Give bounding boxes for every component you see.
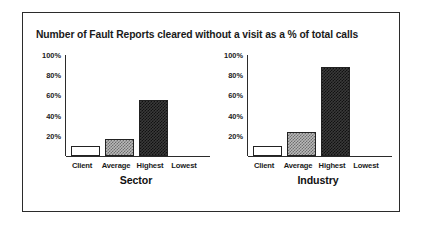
bar-group-industry	[250, 55, 387, 156]
category-label-average: Average	[281, 161, 315, 170]
panel-label-industry: Industry	[247, 174, 389, 186]
plot-area-sector	[65, 55, 205, 156]
chart-title: Number of Fault Reports cleared without …	[36, 29, 388, 40]
y-axis-sector: 100% 80% 60% 40% 20%	[31, 55, 63, 156]
category-label-client: Client	[247, 161, 281, 170]
y-tick-20: 20%	[228, 132, 243, 139]
y-tick-20: 20%	[46, 132, 61, 139]
bar-slot-highest	[318, 55, 352, 156]
category-label-lowest: Lowest	[349, 161, 383, 170]
bar-slot-highest	[136, 55, 170, 156]
category-label-average: Average	[99, 161, 133, 170]
figure-frame: Number of Fault Reports cleared without …	[22, 12, 400, 212]
category-labels-industry: Client Average Highest Lowest	[247, 161, 389, 170]
plot-area-industry	[247, 55, 387, 156]
y-tick-80: 80%	[46, 72, 61, 79]
category-label-highest: Highest	[315, 161, 349, 170]
bar-sector-highest	[139, 100, 168, 156]
bar-industry-average	[287, 132, 316, 156]
y-tick-40: 40%	[46, 112, 61, 119]
y-tick-100: 100%	[224, 52, 243, 59]
category-label-client: Client	[65, 161, 99, 170]
category-label-lowest: Lowest	[167, 161, 201, 170]
y-tick-60: 60%	[46, 92, 61, 99]
y-tick-60: 60%	[228, 92, 243, 99]
bar-slot-client	[68, 55, 102, 156]
bar-group-sector	[68, 55, 205, 156]
chart-panel-sector: 100% 80% 60% 40% 20%	[31, 55, 213, 207]
y-tick-40: 40%	[228, 112, 243, 119]
bar-slot-lowest	[170, 55, 204, 156]
bar-sector-client	[71, 146, 100, 156]
y-tick-80: 80%	[228, 72, 243, 79]
y-tick-100: 100%	[42, 52, 61, 59]
y-axis-industry: 100% 80% 60% 40% 20%	[213, 55, 245, 156]
bar-slot-average	[102, 55, 136, 156]
bar-industry-client	[253, 146, 282, 156]
bar-slot-lowest	[352, 55, 386, 156]
category-label-highest: Highest	[133, 161, 167, 170]
bar-slot-client	[250, 55, 284, 156]
bar-slot-average	[284, 55, 318, 156]
panel-label-sector: Sector	[65, 174, 207, 186]
chart-panel-industry: 100% 80% 60% 40% 20%	[213, 55, 395, 207]
category-labels-sector: Client Average Highest Lowest	[65, 161, 207, 170]
bar-industry-highest	[321, 67, 350, 156]
bar-sector-average	[105, 139, 134, 156]
